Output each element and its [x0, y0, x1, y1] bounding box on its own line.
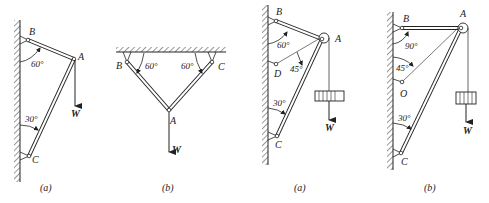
angle-arc-30: [268, 108, 285, 114]
wall-hatch: [387, 12, 393, 170]
label-A: A: [334, 33, 342, 44]
figure-1a: B A C W 60° 30° (a): [14, 20, 85, 194]
bar-CA: [277, 39, 322, 136]
pin-B: [26, 38, 30, 42]
pin-C: [210, 60, 214, 64]
caption: (b): [424, 182, 436, 194]
pin-A: [167, 108, 171, 112]
label-C: C: [401, 156, 408, 167]
caption: (b): [162, 182, 174, 194]
pin-C: [399, 151, 403, 155]
label-B: B: [29, 26, 35, 37]
angle-label-30: 30°: [272, 98, 286, 108]
angle-arc-30: [393, 123, 411, 129]
angle-label-30: 30°: [397, 113, 411, 123]
label-W: W: [325, 122, 335, 133]
ceiling-hatch: [116, 47, 226, 52]
angle-label-90: 90°: [405, 41, 418, 51]
weight-block: [456, 92, 476, 104]
label-D: D: [273, 68, 282, 79]
label-C: C: [275, 139, 282, 150]
label-W: W: [71, 108, 81, 119]
statics-figures: B A C W 60° 30° (a) B C A W 60° 60: [0, 0, 489, 203]
caption: (a): [294, 182, 306, 194]
angle-label-60-left: 60°: [145, 61, 158, 71]
label-W: W: [172, 144, 182, 155]
angle-arc-60-right: [195, 53, 202, 73]
weight-block: [315, 91, 344, 101]
label-B: B: [403, 13, 409, 24]
label-A: A: [459, 8, 467, 19]
angle-arc-30: [20, 125, 38, 130]
angle-arc-60-left: [137, 53, 144, 73]
angle-label-45: 45°: [396, 63, 409, 73]
bar-CA: [29, 59, 74, 156]
angle-label-60: 60°: [31, 59, 44, 69]
label-O: O: [400, 88, 407, 99]
angle-label-45: 45°: [290, 64, 303, 74]
label-A: A: [169, 115, 177, 126]
pin-O: [400, 80, 404, 84]
bar-BA: [28, 40, 74, 59]
label-B: B: [276, 6, 282, 17]
pin-C: [27, 154, 31, 158]
pin-A: [459, 26, 463, 30]
pin-C: [275, 134, 279, 138]
angle-label-30: 30°: [24, 114, 38, 124]
pin-A: [320, 37, 324, 41]
wall-hatch: [262, 5, 268, 165]
angle-label-60: 60°: [277, 40, 290, 50]
pin-D: [274, 62, 278, 66]
figure-2b: B A O C W 90° 45° 30° (b): [387, 8, 476, 194]
label-C: C: [32, 154, 39, 165]
caption: (a): [40, 182, 52, 194]
figure-2a: B A D C W 60° 45° 30° (a): [262, 5, 344, 194]
label-B: B: [116, 60, 122, 71]
wall-hatch: [14, 20, 20, 182]
pin-B: [274, 19, 278, 23]
label-C: C: [218, 61, 225, 72]
label-W: W: [463, 125, 473, 136]
label-A: A: [77, 51, 85, 62]
figure-1b: B C A W 60° 60° (b): [116, 47, 226, 194]
pin-B: [125, 60, 129, 64]
angle-label-60-right: 60°: [181, 61, 194, 71]
pin-B: [400, 26, 404, 30]
